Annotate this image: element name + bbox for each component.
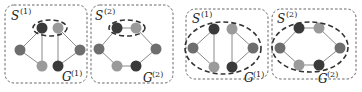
node-mid (94, 44, 105, 55)
node-light (112, 61, 123, 72)
node-light (131, 23, 142, 34)
graph-1-left: S (1) G (1) (5, 5, 87, 84)
g-superscript: (1) (71, 69, 82, 78)
s-superscript: (2) (104, 7, 115, 16)
node-mid (248, 43, 259, 54)
node-mid (335, 43, 346, 54)
s-label: S (95, 9, 103, 23)
node-dark (131, 61, 142, 72)
node-light (209, 62, 220, 73)
node-mid (275, 43, 286, 54)
node-dark (314, 60, 325, 71)
g-superscript: (2) (327, 70, 338, 79)
graph-1-right: S (1) G (1) (185, 9, 268, 85)
node-dark (209, 24, 220, 35)
node-light (53, 23, 64, 34)
node-light (294, 60, 305, 71)
s-superscript: (1) (201, 10, 212, 19)
node-dark (37, 23, 48, 34)
g-superscript: (2) (152, 70, 163, 79)
subgraph-comparison-diagram: S (1) G (1) S (2) G (2) (0, 0, 362, 92)
graph-2-right: S (2) G (2) (272, 9, 356, 86)
s-label: S (11, 9, 19, 23)
s-label: S (192, 12, 200, 26)
node-dark (294, 23, 305, 34)
node-light (227, 24, 238, 35)
s-label: S (277, 12, 285, 26)
graph-2-left: S (2) G (2) (91, 5, 173, 85)
g-superscript: (1) (253, 70, 264, 79)
node-mid (188, 43, 199, 54)
node-mid (151, 44, 162, 55)
node-dark (227, 62, 238, 73)
node-dark (112, 23, 123, 34)
s-superscript: (1) (20, 7, 31, 16)
node-mid (75, 45, 86, 56)
s-superscript: (2) (286, 10, 297, 19)
node-mid (15, 45, 26, 56)
node-light (37, 61, 48, 72)
